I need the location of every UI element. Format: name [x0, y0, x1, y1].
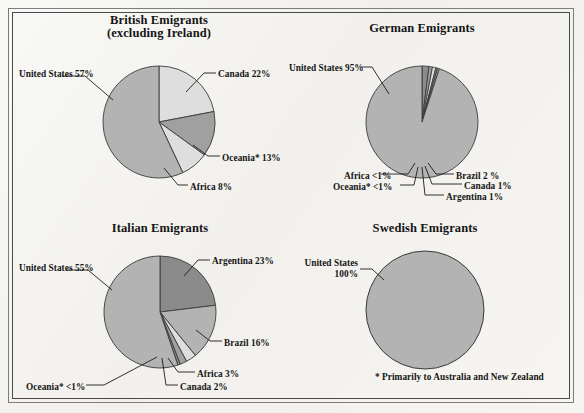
pie-slice-german-united-states-95: [366, 66, 478, 178]
slice-label-italian-united-states: United States 55%: [19, 263, 94, 274]
chart-title-swedish: Swedish Emigrants: [340, 222, 510, 235]
slice-label-italian-africa: Africa 3%: [197, 369, 239, 380]
slice-label-british-oceania: Oceania* 13%: [222, 153, 281, 164]
chart-title-german: German Emigrants: [337, 22, 507, 35]
slice-label-italian-oceania: Oceania* <1%: [26, 382, 85, 393]
slice-label-german-africa: Africa <1%: [344, 171, 391, 182]
chart-title-italian: Italian Emigrants: [75, 222, 245, 235]
slice-label-german-united-states: United States 95%: [289, 63, 364, 74]
slice-label-italian-brazil: Brazil 16%: [224, 338, 270, 349]
slice-label-german-brazil: Brazil 2 %: [456, 171, 499, 182]
leader-british-united-states: [62, 76, 113, 100]
slice-label-british-africa: Africa 8%: [190, 182, 232, 193]
slice-label-italian-argentina: Argentina 23%: [212, 256, 274, 267]
figure-page: British Emigrants (excluding Ireland) Ca…: [0, 0, 584, 413]
slice-label-german-oceania: Oceania* <1%: [333, 182, 392, 193]
pie-slice-swedish-united-states-100: [366, 251, 484, 369]
pie-slice-italian-argentina-23: [160, 256, 216, 312]
slice-label-german-argentina: Argentina 1%: [446, 192, 503, 203]
slice-label-swedish-united-states: United States 100%: [290, 258, 358, 279]
slice-label-british-canada: Canada 22%: [218, 69, 270, 80]
slice-label-british-united-states: United States 57%: [19, 69, 94, 80]
slice-label-italian-canada: Canada 2%: [180, 382, 228, 393]
pie-chart-british: [0, 0, 584, 413]
figure-footnote: * Primarily to Australia and New Zealand: [375, 372, 544, 382]
slice-label-german-canada: Canada 1%: [464, 181, 512, 192]
